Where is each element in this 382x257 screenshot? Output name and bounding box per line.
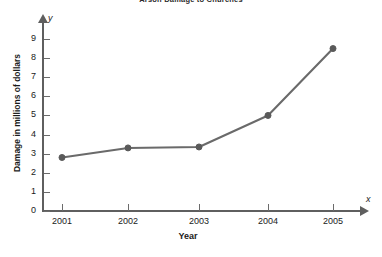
y-axis-title: Damage in millions of dollars (12, 28, 22, 198)
data-point-2001 (59, 154, 65, 160)
data-point-2002 (125, 145, 131, 151)
chart-root: Arson Damage to Churches y x 0123456789 … (0, 0, 382, 257)
data-point-2005 (330, 46, 336, 52)
data-series-layer (0, 0, 382, 257)
plot-area: y x 0123456789 20012002200320042005 Dama… (0, 0, 382, 257)
x-axis-title: Year (42, 231, 334, 241)
data-point-2003 (196, 144, 202, 150)
series-line-damage (62, 49, 333, 158)
data-point-2004 (265, 112, 271, 118)
